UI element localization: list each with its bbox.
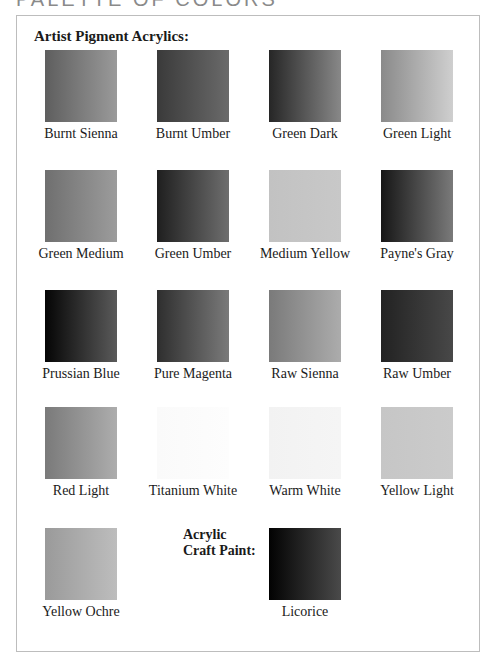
- swatch-label: Warm White: [249, 483, 361, 499]
- swatch-green-dark: Green Dark: [269, 50, 381, 160]
- swatch-label: Raw Sienna: [249, 366, 361, 382]
- color-swatch: [157, 170, 229, 242]
- color-swatch: [381, 50, 453, 122]
- swatch-label: Licorice: [249, 604, 361, 620]
- swatch-medium-yellow: Medium Yellow: [269, 170, 381, 280]
- swatch-burnt-umber: Burnt Umber: [157, 50, 269, 160]
- swatch-pure-magenta: Pure Magenta: [157, 290, 269, 400]
- swatch-payne-s-gray: Payne's Gray: [381, 170, 487, 280]
- swatch-label: Green Light: [361, 126, 473, 142]
- color-swatch: [45, 528, 117, 600]
- page-heading: PALETTE OF COLORS: [16, 0, 278, 11]
- swatch-label: Prussian Blue: [25, 366, 137, 382]
- swatch-green-medium: Green Medium: [45, 170, 157, 280]
- craft-title-line1: Acrylic: [183, 527, 256, 543]
- section-title-artist-pigment: Artist Pigment Acrylics:: [34, 28, 189, 45]
- color-swatch: [269, 407, 341, 479]
- color-swatch: [157, 290, 229, 362]
- swatch-label: Medium Yellow: [249, 246, 361, 262]
- color-swatch: [381, 290, 453, 362]
- swatch-raw-sienna: Raw Sienna: [269, 290, 381, 400]
- swatch-label: Yellow Ochre: [25, 604, 137, 620]
- craft-title-line2: Craft Paint:: [183, 543, 256, 559]
- color-swatch: [381, 170, 453, 242]
- swatch-label: Payne's Gray: [361, 246, 473, 262]
- color-swatch: [45, 170, 117, 242]
- swatch-green-umber: Green Umber: [157, 170, 269, 280]
- swatch-label: Titanium White: [137, 483, 249, 499]
- swatch-label: Burnt Sienna: [25, 126, 137, 142]
- swatch-prussian-blue: Prussian Blue: [45, 290, 157, 400]
- color-swatch: [269, 170, 341, 242]
- swatch-yellow-light: Yellow Light: [381, 407, 487, 517]
- swatch-licorice: Licorice: [269, 528, 381, 638]
- color-swatch: [157, 407, 229, 479]
- swatch-label: Raw Umber: [361, 366, 473, 382]
- color-swatch: [45, 50, 117, 122]
- color-swatch: [45, 407, 117, 479]
- swatch-green-light: Green Light: [381, 50, 487, 160]
- color-swatch: [269, 528, 341, 600]
- color-swatch: [381, 407, 453, 479]
- swatch-label: Green Dark: [249, 126, 361, 142]
- swatch-yellow-ochre: Yellow Ochre: [45, 528, 157, 638]
- color-swatch: [269, 290, 341, 362]
- section-title-craft-paint: Acrylic Craft Paint:: [183, 527, 256, 559]
- swatch-label: Green Medium: [25, 246, 137, 262]
- swatch-burnt-sienna: Burnt Sienna: [45, 50, 157, 160]
- color-swatch: [45, 290, 117, 362]
- color-swatch: [269, 50, 341, 122]
- swatch-label: Red Light: [25, 483, 137, 499]
- swatch-red-light: Red Light: [45, 407, 157, 517]
- swatch-label: Burnt Umber: [137, 126, 249, 142]
- swatch-label: Yellow Light: [361, 483, 473, 499]
- swatch-titanium-white: Titanium White: [157, 407, 269, 517]
- swatch-label: Green Umber: [137, 246, 249, 262]
- swatch-warm-white: Warm White: [269, 407, 381, 517]
- swatch-label: Pure Magenta: [137, 366, 249, 382]
- color-swatch: [157, 50, 229, 122]
- swatch-raw-umber: Raw Umber: [381, 290, 487, 400]
